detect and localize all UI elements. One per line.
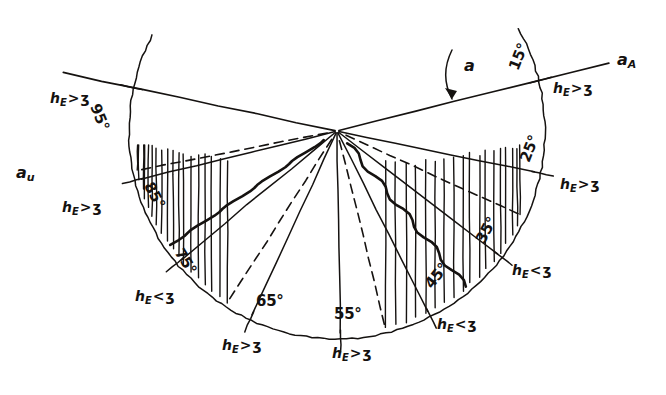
hatch-stroke (211, 157, 212, 292)
hatch-stroke (485, 150, 486, 268)
diagram-vector-layer (0, 0, 666, 395)
condition-label-35: hE<ʒ (512, 262, 552, 280)
condition-label-45: hE<ʒ (437, 316, 477, 334)
axis-right-label: aA (617, 50, 636, 71)
condition-label-75: hE<ʒ (135, 288, 175, 306)
radial-ray-45 (338, 133, 428, 312)
hatch-stroke (469, 152, 470, 282)
rotation-arrow-head (445, 88, 457, 99)
condition-label-65: hE>ʒ (222, 337, 262, 355)
hatched-bands-group (137, 133, 522, 330)
hatch-stroke (463, 156, 464, 292)
hatch-stroke (173, 150, 174, 248)
band-dashed-edge (137, 133, 327, 171)
condition-label-25: hE>ʒ (560, 176, 600, 194)
hatch-stroke (205, 154, 206, 285)
angle-tick-95 (121, 85, 143, 90)
rotation-arrow-group (445, 50, 457, 99)
angle-tick-65 (245, 312, 254, 332)
condition-label-55: hE>ʒ (332, 345, 372, 363)
angle-tick-25 (532, 172, 553, 177)
band-dashed-edge (227, 139, 331, 302)
hatch-stroke (198, 155, 199, 278)
hatch-stroke (426, 160, 427, 314)
band-wavy-centerline (170, 140, 324, 245)
condition-label-85: hE>ʒ (62, 199, 102, 217)
hatch-stroke (494, 151, 495, 262)
hatch-stroke (406, 163, 407, 323)
angle-tick-85 (122, 178, 143, 183)
hatch-stroke (454, 157, 455, 297)
rotation-arrow-label: a (464, 56, 475, 75)
hatched-band-left-band (137, 133, 332, 303)
angle-label-55: 55° (334, 305, 361, 323)
diagram-canvas: 15°hE>ʒ25°hE>ʒ35°hE<ʒ45°hE<ʒ55°hE>ʒ65°hE… (0, 0, 666, 395)
angle-label-65: 65° (256, 292, 283, 310)
radial-ray-55 (337, 133, 340, 333)
condition-label-15: hE>ʒ (553, 80, 593, 98)
radial-ray-85 (141, 131, 335, 179)
hatch-stroke (517, 149, 518, 226)
hatch-stroke (395, 162, 396, 324)
condition-label-95: hE>ʒ (50, 90, 90, 108)
angle-tick-45 (427, 309, 437, 328)
angle-tick-15 (530, 77, 551, 83)
band-dashed-edge (339, 141, 385, 330)
hatch-stroke (227, 161, 228, 303)
axis-left-label: au (16, 163, 35, 184)
